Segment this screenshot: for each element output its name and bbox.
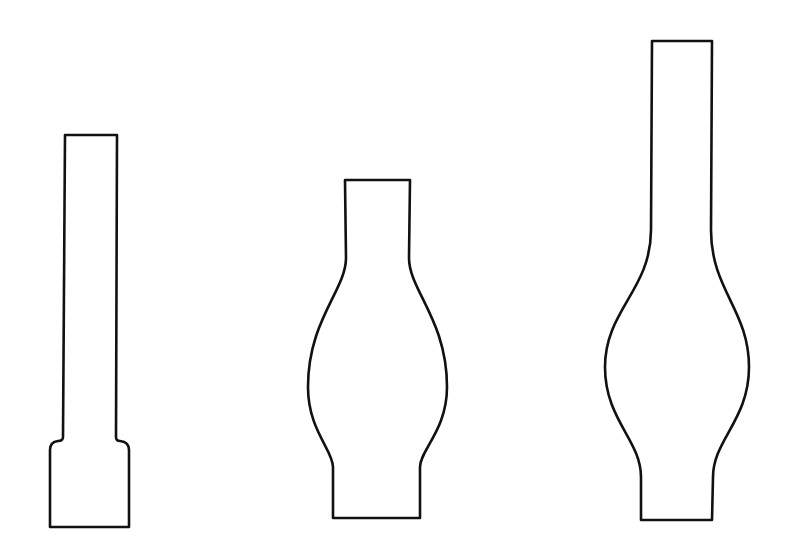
short-bulge-chimney-outline (308, 180, 447, 518)
straight-chimney-outline (50, 135, 129, 527)
drawing-canvas (0, 0, 792, 555)
tall-bulge-chimney-outline (605, 41, 749, 520)
